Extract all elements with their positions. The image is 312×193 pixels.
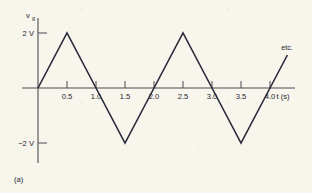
y-axis-label: v g bbox=[26, 11, 35, 21]
x-tick-label-6: 3.5 bbox=[236, 92, 247, 101]
y-tick-label-negative: −2 V bbox=[18, 139, 35, 148]
waveform-chart: 0.5 1.0 1.5 2.0 2.5 3.0 3.5 4.0 2 V −2 V… bbox=[0, 0, 312, 193]
y-axis-label-main: v bbox=[26, 11, 30, 20]
x-tick-labels: 0.5 1.0 1.5 2.0 2.5 3.0 3.5 4.0 bbox=[62, 92, 276, 101]
y-tick-label-positive: 2 V bbox=[23, 29, 35, 38]
x-tick-marks bbox=[67, 81, 270, 88]
x-tick-label-2: 1.5 bbox=[120, 92, 131, 101]
figure-container: 0.5 1.0 1.5 2.0 2.5 3.0 3.5 4.0 2 V −2 V… bbox=[0, 0, 312, 193]
y-axis-label-subscript: g bbox=[32, 15, 35, 21]
figure-caption: (a) bbox=[14, 175, 24, 184]
x-axis-label: t (s) bbox=[276, 92, 290, 101]
x-tick-label-4: 2.5 bbox=[178, 92, 189, 101]
x-tick-label-0: 0.5 bbox=[62, 92, 73, 101]
etc-annotation: etc. bbox=[281, 43, 293, 52]
